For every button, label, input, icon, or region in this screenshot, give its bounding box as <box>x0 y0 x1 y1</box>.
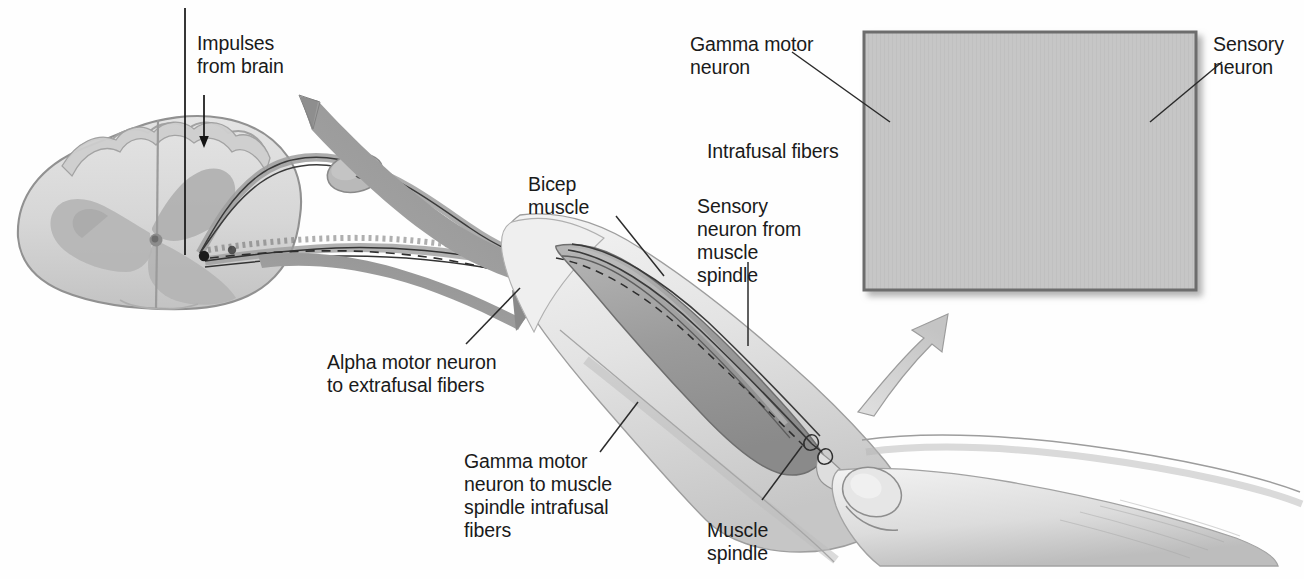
spinal-cord-cross-section <box>18 116 301 309</box>
label-sensory-neuron-inset: Sensory neuron <box>1213 33 1284 79</box>
label-bicep-muscle: Bicep muscle <box>528 173 589 219</box>
label-intrafusal-fibers-inset: Intrafusal fibers <box>707 140 839 163</box>
label-sensory-neuron-from-spindle: Sensory neuron from muscle spindle <box>697 195 801 287</box>
label-alpha-motor-neuron: Alpha motor neuron to extrafusal fibers <box>327 351 496 397</box>
muscle-spindle-inset <box>864 32 1196 290</box>
anatomy-illustration <box>0 0 1304 579</box>
flexion-arrow <box>858 314 948 416</box>
figure-canvas: Impulses from brain Bicep muscle Alpha m… <box>0 0 1304 579</box>
label-gamma-motor-neuron-inset: Gamma motor neuron <box>690 33 814 79</box>
label-impulses-from-brain: Impulses from brain <box>197 32 284 78</box>
label-muscle-spindle: Muscle spindle <box>707 519 768 565</box>
label-gamma-motor-neuron-spindle: Gamma motor neuron to muscle spindle int… <box>464 450 612 542</box>
